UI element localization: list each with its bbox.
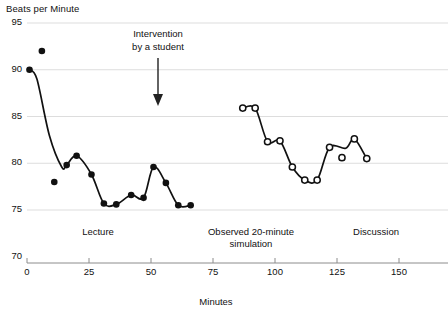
intervention-annotation: Intervention by a student — [108, 28, 208, 53]
data-point — [314, 177, 320, 183]
phase-label-lecture-text: Lecture — [82, 226, 114, 237]
data-point — [289, 164, 295, 170]
phase-label-lecture: Lecture — [58, 226, 138, 238]
x-axis-title-text: Minutes — [199, 296, 232, 307]
y-tick-label: 80 — [0, 156, 22, 167]
x-tick-label: 125 — [322, 266, 352, 277]
y-tick-label: 70 — [0, 250, 22, 261]
data-point — [302, 177, 308, 183]
data-point — [101, 200, 108, 207]
intervention-arrow — [153, 58, 163, 106]
x-tick-label: 25 — [74, 266, 104, 277]
data-point — [277, 138, 283, 144]
data-point — [163, 180, 170, 187]
data-point — [339, 155, 345, 161]
x-tick-label: 0 — [12, 266, 42, 277]
phase-label-simulation-line2: simulation — [196, 238, 306, 250]
y-tick-label: 95 — [0, 16, 22, 27]
x-tick-label: 75 — [198, 266, 228, 277]
data-point — [326, 144, 332, 150]
data-markers — [26, 48, 370, 209]
gridlines — [27, 23, 448, 210]
data-point — [113, 201, 120, 208]
data-point — [187, 202, 194, 209]
x-axis-title: Minutes — [0, 296, 448, 307]
data-point — [364, 155, 370, 161]
trend-curve — [243, 106, 367, 183]
x-tick-label: 50 — [136, 266, 166, 277]
phase-label-simulation-line1: Observed 20-minute — [196, 226, 306, 238]
phase-label-discussion: Discussion — [326, 226, 426, 238]
x-tick-label: 100 — [260, 266, 290, 277]
data-point — [51, 179, 58, 186]
y-tick-label: 90 — [0, 63, 22, 74]
data-point — [26, 66, 33, 73]
trend-curves — [29, 70, 366, 207]
data-point — [252, 105, 258, 111]
heart-rate-chart: Beats per Minute 707580859095 0255075100… — [0, 0, 448, 319]
data-point — [264, 139, 270, 145]
data-point — [128, 192, 135, 199]
trend-curve — [29, 70, 190, 207]
data-point — [140, 195, 147, 202]
intervention-annotation-line2: by a student — [108, 41, 208, 54]
data-point — [63, 162, 70, 169]
y-tick-label: 85 — [0, 110, 22, 121]
phase-label-discussion-text: Discussion — [353, 226, 399, 237]
data-point — [39, 48, 46, 55]
data-point — [351, 136, 357, 142]
phase-label-simulation: Observed 20-minute simulation — [196, 226, 306, 250]
intervention-annotation-line1: Intervention — [108, 28, 208, 41]
x-tick-label: 150 — [384, 266, 414, 277]
data-point — [88, 171, 95, 178]
y-tick-label: 75 — [0, 203, 22, 214]
x-axis-ticks — [27, 258, 399, 263]
data-point — [73, 152, 80, 159]
data-point — [240, 105, 246, 111]
data-point — [175, 202, 182, 209]
data-point — [150, 164, 157, 171]
